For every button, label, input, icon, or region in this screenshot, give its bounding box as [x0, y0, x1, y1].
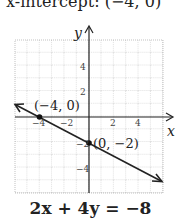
- y-tick: 4: [80, 62, 86, 72]
- y-tick: −2: [76, 139, 89, 149]
- y-tick: 2: [80, 87, 86, 97]
- equation: 2x + 4y = −8: [0, 198, 181, 218]
- x-tick: −2: [60, 118, 73, 128]
- point-label-x-intercept: (−4, 0): [34, 98, 80, 113]
- y-tick: −4: [76, 164, 90, 174]
- coordinate-graph: y x (−4, 0) (0, −2) −4 −2 2 4 4 2 −2 −4: [0, 0, 181, 223]
- x-axis-label: x: [167, 123, 175, 139]
- x-tick: 4: [135, 118, 141, 128]
- y-axis-label: y: [73, 25, 83, 41]
- x-tick: 2: [110, 118, 116, 128]
- x-tick: −4: [32, 118, 46, 128]
- point-label-y-intercept: (0, −2): [93, 136, 139, 151]
